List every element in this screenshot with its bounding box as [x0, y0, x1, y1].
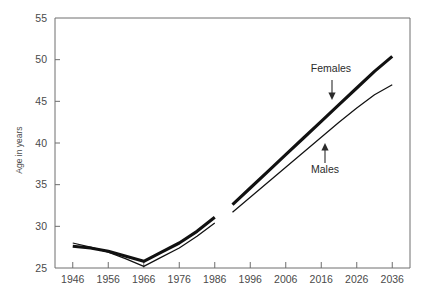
y-tick-label-55: 55	[35, 12, 47, 24]
x-tick-label-2016: 2016	[310, 273, 334, 285]
x-tick-label-1976: 1976	[168, 273, 192, 285]
y-tick-label-30: 30	[35, 220, 47, 232]
x-tick-label-2036: 2036	[381, 273, 405, 285]
x-tick-label-2006: 2006	[274, 273, 298, 285]
x-tick-label-1986: 1986	[203, 273, 227, 285]
x-tick-label-1996: 1996	[239, 273, 263, 285]
y-axis-title: Age in years	[14, 126, 24, 173]
y-tick-label-40: 40	[35, 137, 47, 149]
males-label: Males	[311, 163, 339, 175]
chart-background	[0, 0, 425, 300]
y-tick-label-50: 50	[35, 53, 47, 65]
x-tick-label-1956: 1956	[97, 273, 121, 285]
y-tick-label-35: 35	[35, 178, 47, 190]
females-label: Females	[311, 62, 351, 74]
x-tick-label-1966: 1966	[132, 273, 156, 285]
x-tick-label-1946: 1946	[61, 273, 85, 285]
chart-container: 25303540455055 1946195619661976198619962…	[0, 0, 425, 300]
y-tick-label-25: 25	[35, 262, 47, 274]
y-tick-label-45: 45	[35, 95, 47, 107]
x-tick-label-2026: 2026	[345, 273, 369, 285]
population-age-line-chart: 25303540455055 1946195619661976198619962…	[0, 0, 425, 300]
